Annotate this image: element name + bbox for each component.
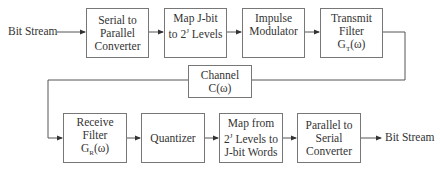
block-line: Serial <box>316 132 343 145</box>
block-line: Map from <box>228 117 274 130</box>
impulse-modulator-block: Impulse Modulator <box>242 8 305 58</box>
block-line: to 2J Levels <box>169 25 223 41</box>
block-line: Receive <box>76 116 113 129</box>
block-line: C(ω) <box>209 82 232 95</box>
serial-to-parallel-block: Serial to Parallel Converter <box>86 8 149 58</box>
map-jbit-block: Map J-bit to 2J Levels <box>164 8 227 58</box>
block-line: Converter <box>95 40 141 53</box>
block-line: Parallel <box>100 27 135 40</box>
block-line: Filter <box>83 129 108 142</box>
block-line: Channel <box>201 69 239 82</box>
transfer-function: GR(ω) <box>81 142 109 160</box>
block-line: Map J-bit <box>173 12 217 25</box>
channel-block: Channel C(ω) <box>188 65 252 98</box>
receive-filter-block: Receive Filter GR(ω) <box>63 113 127 163</box>
block-line: Quantizer <box>150 132 195 145</box>
quantizer-block: Quantizer <box>141 113 205 163</box>
block-line: Filter <box>339 25 364 38</box>
block-line: Serial to <box>98 14 137 27</box>
parallel-to-serial-block: Parallel to Serial Converter <box>297 113 361 163</box>
block-line: Modulator <box>249 25 298 38</box>
map-from-levels-block: Map from 2J Levels to J-bit Words <box>219 113 283 163</box>
output-bit-stream-label: Bit Stream <box>385 131 435 143</box>
block-line: Impulse <box>255 12 292 25</box>
block-line: 2J Levels to <box>224 130 278 146</box>
block-line: J-bit Words <box>225 146 278 159</box>
input-bit-stream-label: Bit Stream <box>8 25 58 37</box>
transfer-function: GT(ω) <box>338 38 366 56</box>
block-line: Converter <box>306 145 352 158</box>
transmit-filter-block: Transmit Filter GT(ω) <box>320 8 383 58</box>
block-line: Parallel to <box>306 119 353 132</box>
block-line: Transmit <box>331 12 372 25</box>
